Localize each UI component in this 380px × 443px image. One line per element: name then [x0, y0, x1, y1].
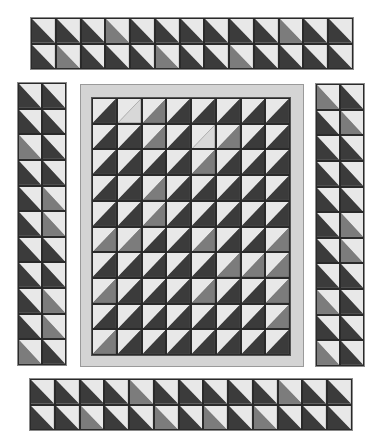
half-square-triangle-block	[142, 149, 167, 175]
half-square-triangle-block	[42, 83, 66, 109]
half-square-triangle-block	[216, 329, 241, 355]
half-square-triangle-block	[216, 227, 241, 253]
half-square-triangle-block	[340, 84, 364, 110]
half-square-triangle-block	[166, 227, 191, 253]
half-square-triangle-block	[18, 186, 42, 212]
half-square-triangle-block	[241, 252, 266, 278]
half-square-triangle-block	[142, 329, 167, 355]
half-square-triangle-block	[203, 405, 228, 431]
center-quilt-grid	[91, 97, 291, 356]
half-square-triangle-block	[42, 186, 66, 212]
half-square-triangle-block	[241, 124, 266, 150]
half-square-triangle-block	[191, 149, 216, 175]
half-square-triangle-block	[327, 379, 352, 405]
half-square-triangle-block	[316, 187, 340, 213]
half-square-triangle-block	[316, 263, 340, 289]
half-square-triangle-block	[92, 304, 117, 330]
half-square-triangle-block	[55, 405, 80, 431]
half-square-triangle-block	[92, 227, 117, 253]
half-square-triangle-block	[216, 175, 241, 201]
half-square-triangle-block	[117, 304, 142, 330]
half-square-triangle-block	[18, 134, 42, 160]
half-square-triangle-block	[92, 201, 117, 227]
half-square-triangle-block	[55, 379, 80, 405]
half-square-triangle-block	[191, 98, 216, 124]
half-square-triangle-block	[18, 339, 42, 365]
half-square-triangle-block	[92, 252, 117, 278]
half-square-triangle-block	[302, 405, 327, 431]
half-square-triangle-block	[241, 304, 266, 330]
half-square-triangle-block	[216, 278, 241, 304]
half-square-triangle-block	[56, 18, 81, 44]
half-square-triangle-block	[179, 405, 204, 431]
half-square-triangle-block	[142, 227, 167, 253]
half-square-triangle-block	[179, 379, 204, 405]
half-square-triangle-block	[265, 175, 290, 201]
half-square-triangle-block	[340, 212, 364, 238]
half-square-triangle-block	[303, 44, 328, 70]
half-square-triangle-block	[203, 379, 228, 405]
half-square-triangle-block	[166, 201, 191, 227]
half-square-triangle-block	[279, 18, 304, 44]
half-square-triangle-block	[228, 405, 253, 431]
half-square-triangle-block	[316, 340, 340, 366]
half-square-triangle-block	[42, 237, 66, 263]
half-square-triangle-block	[316, 238, 340, 264]
half-square-triangle-block	[117, 124, 142, 150]
half-square-triangle-block	[254, 44, 279, 70]
half-square-triangle-block	[142, 175, 167, 201]
half-square-triangle-block	[340, 187, 364, 213]
half-square-triangle-block	[278, 405, 303, 431]
half-square-triangle-block	[265, 201, 290, 227]
half-square-triangle-block	[191, 304, 216, 330]
half-square-triangle-block	[117, 329, 142, 355]
half-square-triangle-block	[229, 18, 254, 44]
half-square-triangle-block	[92, 124, 117, 150]
half-square-triangle-block	[117, 149, 142, 175]
half-square-triangle-block	[42, 262, 66, 288]
half-square-triangle-block	[265, 227, 290, 253]
half-square-triangle-block	[279, 44, 304, 70]
half-square-triangle-block	[241, 227, 266, 253]
half-square-triangle-block	[265, 98, 290, 124]
half-square-triangle-block	[253, 405, 278, 431]
half-square-triangle-block	[42, 160, 66, 186]
half-square-triangle-block	[204, 18, 229, 44]
half-square-triangle-block	[265, 149, 290, 175]
half-square-triangle-block	[117, 98, 142, 124]
left-border-strip	[17, 82, 67, 366]
half-square-triangle-block	[166, 252, 191, 278]
half-square-triangle-block	[18, 314, 42, 340]
half-square-triangle-block	[155, 44, 180, 70]
half-square-triangle-block	[191, 227, 216, 253]
half-square-triangle-block	[92, 149, 117, 175]
half-square-triangle-block	[154, 379, 179, 405]
half-square-triangle-block	[130, 44, 155, 70]
half-square-triangle-block	[340, 238, 364, 264]
half-square-triangle-block	[340, 340, 364, 366]
half-square-triangle-block	[18, 109, 42, 135]
half-square-triangle-block	[142, 201, 167, 227]
half-square-triangle-block	[228, 379, 253, 405]
half-square-triangle-block	[316, 315, 340, 341]
half-square-triangle-block	[180, 44, 205, 70]
half-square-triangle-block	[104, 379, 129, 405]
half-square-triangle-block	[105, 44, 130, 70]
half-square-triangle-block	[104, 405, 129, 431]
half-square-triangle-block	[191, 201, 216, 227]
half-square-triangle-block	[340, 110, 364, 136]
half-square-triangle-block	[42, 314, 66, 340]
half-square-triangle-block	[265, 278, 290, 304]
half-square-triangle-block	[30, 405, 55, 431]
half-square-triangle-block	[117, 175, 142, 201]
half-square-triangle-block	[18, 288, 42, 314]
half-square-triangle-block	[241, 175, 266, 201]
half-square-triangle-block	[18, 211, 42, 237]
half-square-triangle-block	[328, 18, 353, 44]
half-square-triangle-block	[278, 379, 303, 405]
half-square-triangle-block	[166, 149, 191, 175]
half-square-triangle-block	[142, 252, 167, 278]
half-square-triangle-block	[18, 83, 42, 109]
half-square-triangle-block	[265, 329, 290, 355]
half-square-triangle-block	[216, 124, 241, 150]
